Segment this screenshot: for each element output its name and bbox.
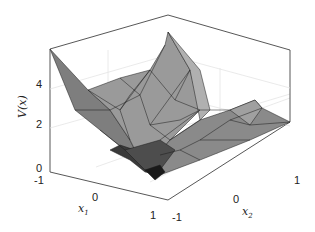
svg-text:-1: -1: [172, 211, 182, 223]
svg-text:1: 1: [150, 209, 156, 221]
svg-text:V(x): V(x): [16, 95, 29, 118]
surface-plot: 4 2 0 V(x) -1 0 1 x1 -1 0 1 x2: [0, 0, 315, 232]
svg-text:0: 0: [92, 191, 98, 203]
surface-mesh: [50, 32, 290, 180]
svg-text:x1: x1: [78, 202, 89, 217]
svg-text:4: 4: [36, 78, 42, 90]
svg-text:0: 0: [233, 193, 239, 205]
svg-text:x2: x2: [242, 205, 253, 220]
svg-text:-1: -1: [34, 174, 44, 186]
svg-text:2: 2: [36, 118, 42, 130]
x1-axis: -1 0 1 x1: [34, 174, 156, 221]
z-axis: 4 2 0 V(x): [16, 78, 42, 174]
svg-text:0: 0: [36, 162, 42, 174]
svg-text:1: 1: [294, 174, 300, 186]
x2-axis: -1 0 1 x2: [172, 174, 300, 223]
